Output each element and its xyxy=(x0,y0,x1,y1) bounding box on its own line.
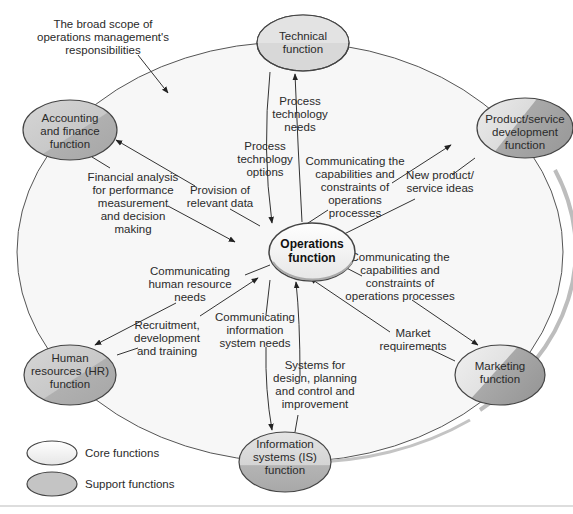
svg-text:relevant data: relevant data xyxy=(187,197,254,209)
svg-text:and decision: and decision xyxy=(101,210,166,222)
svg-text:Operations: Operations xyxy=(280,237,344,251)
flow-label-comm-is-needs: Communicating information system needs xyxy=(215,311,295,349)
svg-text:function: function xyxy=(288,251,335,265)
svg-text:constraints of: constraints of xyxy=(321,181,390,193)
svg-text:Accounting: Accounting xyxy=(42,112,99,124)
svg-text:resources (HR): resources (HR) xyxy=(31,365,109,377)
svg-text:human resource: human resource xyxy=(148,278,231,290)
node-product-service-function: Product/service development function xyxy=(477,98,573,158)
svg-text:function: function xyxy=(50,138,90,150)
svg-text:development: development xyxy=(492,126,559,138)
svg-text:information: information xyxy=(227,324,284,336)
svg-text:function: function xyxy=(283,43,323,55)
svg-text:Core functions: Core functions xyxy=(85,447,159,459)
svg-text:technology: technology xyxy=(237,153,293,165)
svg-text:technology: technology xyxy=(272,108,328,120)
svg-text:Support functions: Support functions xyxy=(85,478,175,490)
svg-text:operations: operations xyxy=(328,194,382,206)
legend: Core functions Support functions xyxy=(27,441,175,496)
svg-text:requirements: requirements xyxy=(379,340,446,352)
svg-text:Systems for: Systems for xyxy=(285,359,346,371)
node-operations-function: Operations function xyxy=(269,223,355,281)
svg-text:systems (IS): systems (IS) xyxy=(253,451,317,463)
legend-support: Support functions xyxy=(27,472,175,496)
svg-text:capabilities and: capabilities and xyxy=(315,168,394,180)
node-technical-function: Technical function xyxy=(257,15,349,71)
flow-label-new-product-ideas: New product/ service ideas xyxy=(406,169,475,194)
svg-text:development: development xyxy=(134,332,201,344)
svg-text:New product/: New product/ xyxy=(406,169,475,181)
svg-text:Technical: Technical xyxy=(279,30,327,42)
svg-text:Provision of: Provision of xyxy=(190,184,251,196)
svg-text:function: function xyxy=(50,378,90,390)
legend-core: Core functions xyxy=(27,441,159,465)
svg-text:Communicating: Communicating xyxy=(215,311,295,323)
svg-text:Product/service: Product/service xyxy=(485,113,564,125)
svg-text:service ideas: service ideas xyxy=(406,182,473,194)
svg-text:and finance: and finance xyxy=(40,125,99,137)
node-is-function: Information systems (IS) function xyxy=(239,432,331,492)
svg-text:Information: Information xyxy=(256,438,314,450)
svg-text:options: options xyxy=(246,166,283,178)
svg-text:and training: and training xyxy=(137,345,197,357)
svg-text:and control and: and control and xyxy=(275,385,354,397)
svg-text:design, planning: design, planning xyxy=(273,372,357,384)
node-accounting-function: Accounting and finance function xyxy=(23,100,117,160)
svg-text:Recruitment,: Recruitment, xyxy=(134,319,199,331)
svg-text:making: making xyxy=(114,223,151,235)
svg-text:capabilities and: capabilities and xyxy=(360,264,439,276)
svg-text:Financial analysis: Financial analysis xyxy=(88,171,179,183)
flow-label-recruitment: Recruitment, development and training xyxy=(134,319,201,357)
svg-text:improvement: improvement xyxy=(282,398,349,410)
node-hr-function: Human resources (HR) function xyxy=(24,345,116,405)
svg-text:operations management's: operations management's xyxy=(37,31,169,43)
node-marketing-function: Marketing function xyxy=(455,345,545,405)
svg-text:Communicating the: Communicating the xyxy=(350,251,449,263)
svg-text:constraints of: constraints of xyxy=(366,277,435,289)
svg-text:Communicating: Communicating xyxy=(150,265,230,277)
svg-text:function: function xyxy=(265,464,305,476)
svg-text:needs: needs xyxy=(284,121,316,133)
svg-text:for performance: for performance xyxy=(92,184,173,196)
svg-text:Communicating the: Communicating the xyxy=(305,155,404,167)
svg-text:function: function xyxy=(505,139,545,151)
svg-text:function: function xyxy=(480,373,520,385)
svg-text:measurement: measurement xyxy=(98,197,169,209)
flow-label-systems-design: Systems for design, planning and control… xyxy=(273,359,357,410)
svg-text:Process: Process xyxy=(279,95,321,107)
svg-text:system needs: system needs xyxy=(220,337,291,349)
flow-label-provision-data: Provision of relevant data xyxy=(187,184,254,209)
svg-text:processes: processes xyxy=(329,207,382,219)
svg-text:Process: Process xyxy=(244,140,286,152)
scope-note: The broad scope of operations management… xyxy=(37,18,169,56)
svg-text:needs: needs xyxy=(174,291,206,303)
svg-text:The broad scope of: The broad scope of xyxy=(53,18,153,30)
svg-text:Market: Market xyxy=(395,327,431,339)
operations-scope-diagram: The broad scope of operations management… xyxy=(0,0,573,514)
svg-text:responsibilities: responsibilities xyxy=(65,44,141,56)
svg-text:Marketing: Marketing xyxy=(475,360,526,372)
svg-text:Human: Human xyxy=(51,352,88,364)
svg-text:operations processes: operations processes xyxy=(345,290,455,302)
